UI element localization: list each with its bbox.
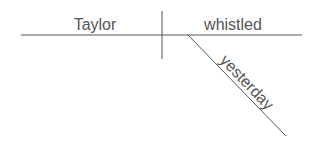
subject-word: Taylor <box>74 16 117 33</box>
verb-word: whistled <box>203 16 262 33</box>
modifier-line <box>188 35 286 136</box>
modifier-word: yesterday <box>217 51 277 113</box>
sentence-diagram: Taylor whistled yesterday <box>0 0 314 144</box>
